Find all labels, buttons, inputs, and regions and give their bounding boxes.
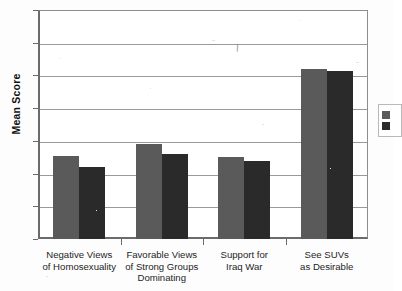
bar-group <box>38 10 121 239</box>
bar <box>79 167 105 239</box>
x-category-label: See SUVsas Desirable <box>286 249 369 272</box>
x-tick-mark <box>286 239 287 245</box>
scan-speckle <box>356 62 359 63</box>
bar <box>218 157 244 239</box>
y-tick-mark <box>33 239 38 240</box>
scan-speckle <box>188 262 191 263</box>
scan-speckle <box>96 210 97 211</box>
y-axis-title: Mean Score <box>10 64 26 144</box>
x-tick-mark <box>121 239 122 245</box>
bar-group <box>286 10 369 239</box>
bar <box>53 156 79 239</box>
legend <box>378 104 402 137</box>
bar-group <box>121 10 204 239</box>
scan-speckle <box>300 20 301 21</box>
bars-layer <box>38 10 368 239</box>
bar <box>301 69 327 239</box>
legend-item <box>382 120 398 131</box>
x-category-label: Favorable Viewsof Strong GroupsDominatin… <box>121 249 204 284</box>
x-category-label: Negative Viewsof Homosexuality <box>38 249 121 272</box>
legend-swatch-series-2 <box>382 122 390 130</box>
scan-speckle <box>150 88 151 89</box>
bar <box>244 161 270 240</box>
scan-speckle <box>330 168 331 169</box>
scan-speckle <box>262 124 264 125</box>
scan-speckle <box>46 276 48 277</box>
bar <box>162 154 188 239</box>
bar <box>136 144 162 239</box>
legend-item <box>382 109 398 120</box>
legend-swatch-series-1 <box>382 111 390 119</box>
x-tick-mark <box>203 239 204 245</box>
scan-speckle <box>60 58 61 59</box>
scan-speckle <box>212 40 215 41</box>
x-category-label: Support forIraq War <box>203 249 286 272</box>
bar <box>327 71 353 239</box>
